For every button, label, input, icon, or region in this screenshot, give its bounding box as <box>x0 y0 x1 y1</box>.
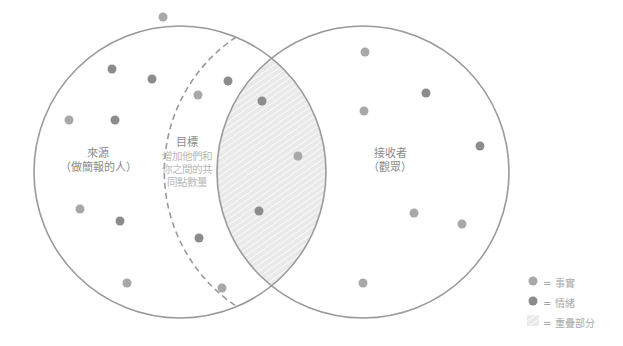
source-label: 來源 （做簡報的人） <box>58 147 138 175</box>
receiver-title: 接收者 <box>360 147 420 161</box>
goal-desc-line-2: 你之間的共 <box>152 163 222 176</box>
emotion-dot <box>476 142 485 151</box>
emotion-dot <box>224 77 233 86</box>
goal-desc-line-3: 同點數量 <box>152 176 222 189</box>
emotion-dot <box>422 89 431 98</box>
fact-dot <box>359 279 368 288</box>
fact-dot <box>218 284 227 293</box>
fact-dot <box>76 205 85 214</box>
goal-label: 目標 增加他們和 你之間的共 同點數量 <box>152 136 222 189</box>
legend-emotion-label: = 情緒 <box>543 295 575 310</box>
goal-title: 目標 <box>152 136 222 150</box>
legend-overlap: = 重疊部分 <box>543 312 595 332</box>
emotion-dot <box>195 234 204 243</box>
fact-dot <box>458 220 467 229</box>
receiver-label: 接收者 （觀眾） <box>360 147 420 175</box>
emotion-dot <box>108 65 117 74</box>
emotion-dot <box>116 217 125 226</box>
emotion-dot <box>148 75 157 84</box>
fact-dot <box>194 91 203 100</box>
emotion-dot <box>255 207 264 216</box>
legend-fact: = 事實 <box>543 272 595 292</box>
legend-emotion: = 情緒 <box>543 292 595 312</box>
legend-overlap-label: = 重疊部分 <box>543 315 595 330</box>
source-title: 來源 <box>58 147 138 161</box>
fact-dot <box>294 152 303 161</box>
fact-dot <box>65 116 74 125</box>
fact-dot <box>410 209 419 218</box>
receiver-subtitle: （觀眾） <box>360 161 420 175</box>
source-subtitle: （做簡報的人） <box>58 161 138 175</box>
fact-dot <box>361 48 370 57</box>
fact-dot <box>123 279 132 288</box>
emotion-dot <box>258 97 267 106</box>
fact-dot <box>360 107 369 116</box>
emotion-dot <box>111 116 120 125</box>
fact-dot <box>159 13 168 22</box>
legend-fact-label: = 事實 <box>543 275 575 290</box>
legend: = 事實 = 情緒 = 重疊部分 <box>527 272 595 332</box>
goal-desc-line-1: 增加他們和 <box>152 150 222 163</box>
